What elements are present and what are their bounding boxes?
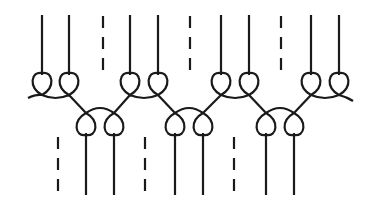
top-loop: [121, 73, 140, 95]
chain-strand: [28, 95, 353, 113]
stitch-diagram-canvas: [0, 0, 376, 210]
top-loop: [302, 73, 321, 95]
bottom-loop: [166, 113, 185, 135]
loop-chain: [28, 95, 353, 113]
top-loop: [33, 73, 52, 95]
bottom-dashed-thread-group: [58, 137, 234, 195]
bottom-loop: [105, 113, 124, 135]
top-loop: [240, 73, 259, 95]
stitch-diagram: Stitch pattern: looped chain with vertic…: [0, 0, 376, 210]
top-loop: [149, 73, 168, 95]
top-loop: [60, 73, 79, 95]
top-loop: [212, 73, 231, 95]
bottom-loop: [77, 113, 96, 135]
bottom-loop: [285, 113, 304, 135]
bottom-loop: [257, 113, 276, 135]
bottom-thread-group: [77, 113, 304, 195]
bottom-loop: [194, 113, 213, 135]
top-loop: [330, 73, 349, 95]
